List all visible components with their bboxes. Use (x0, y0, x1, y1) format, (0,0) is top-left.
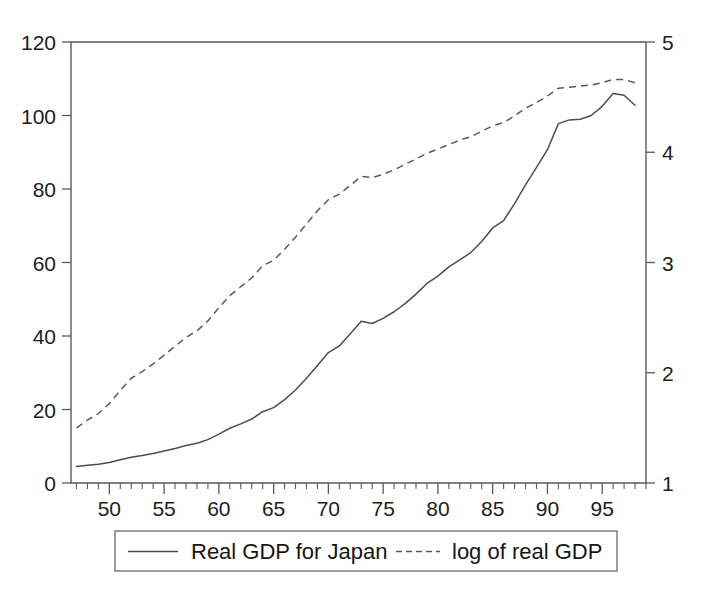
legend-label-real-gdp: Real GDP for Japan (191, 539, 387, 564)
chart-legend: Real GDP for Japan log of real GDP (115, 531, 617, 571)
right-axis-labels: 1 2 3 4 5 (662, 31, 674, 495)
x-tick-label: 95 (591, 497, 614, 520)
x-tick-label: 60 (207, 497, 230, 520)
x-tick-label: 90 (536, 497, 559, 520)
series-real-gdp-for-japan (76, 93, 635, 466)
x-tick-label: 70 (317, 497, 340, 520)
left-axis-labels: 0 20 40 60 80 100 120 (21, 31, 56, 495)
y-tick-label-0: 0 (44, 472, 56, 495)
legend-label-log-real-gdp: log of real GDP (452, 539, 602, 564)
y2-tick-label-1: 1 (662, 472, 674, 495)
y-tick-label-100: 100 (21, 105, 56, 128)
y-tick-label-20: 20 (33, 399, 56, 422)
x-tick-label: 75 (371, 497, 394, 520)
y-tick-label-120: 120 (21, 31, 56, 54)
y2-tick-label-3: 3 (662, 252, 674, 275)
x-tick-label: 80 (426, 497, 449, 520)
y-tick-label-80: 80 (33, 178, 56, 201)
plot-frame (71, 42, 646, 483)
x-tick-label: 85 (481, 497, 504, 520)
gdp-dual-axis-line-chart: 0 20 40 60 80 100 120 1 2 3 4 5 50556065… (0, 0, 701, 609)
y2-tick-label-2: 2 (662, 362, 674, 385)
x-tick-label: 50 (98, 497, 121, 520)
y2-tick-label-4: 4 (662, 141, 674, 164)
x-tick-label: 55 (152, 497, 175, 520)
x-axis-ticks (76, 483, 646, 494)
y-tick-label-40: 40 (33, 325, 56, 348)
x-tick-label: 65 (262, 497, 285, 520)
series-log-of-real-gdp (76, 79, 635, 427)
figure-container: 0 20 40 60 80 100 120 1 2 3 4 5 50556065… (0, 0, 701, 609)
left-axis-ticks (62, 42, 71, 483)
right-axis-ticks (646, 42, 655, 483)
x-axis-labels: 50556065707580859095 (98, 497, 614, 520)
y-tick-label-60: 60 (33, 252, 56, 275)
y2-tick-label-5: 5 (662, 31, 674, 54)
series-group (76, 79, 635, 466)
